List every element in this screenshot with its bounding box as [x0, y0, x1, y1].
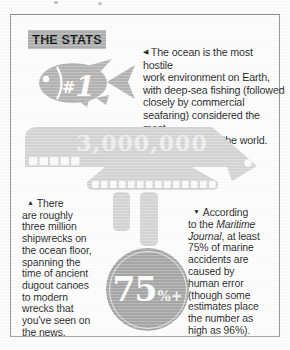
hull-windows — [29, 157, 80, 165]
human-error-stat-circle: 75%+ — [106, 248, 189, 331]
stats-header: THE STATS — [28, 30, 106, 49]
smokestack-right — [140, 192, 158, 246]
scan-artifact — [54, 1, 58, 4]
ship-porthole — [244, 159, 252, 167]
fish-eye — [43, 76, 49, 82]
number-one-fish-icon: #1 — [35, 58, 135, 107]
shipwreck-count-value: 3,000,000 — [76, 130, 207, 156]
stats-header-label: THE STATS — [32, 33, 101, 47]
stat-value-group: 75%+ — [113, 270, 183, 309]
triangle-down-icon: ▼ — [193, 208, 200, 215]
shipwrecks-text: There are roughly three million shipwrec… — [22, 198, 91, 338]
triangle-up-icon: ▲ — [27, 199, 34, 206]
shipwrecks-paragraph: ▲There are roughly three million shipwre… — [22, 197, 126, 338]
fish-tail — [107, 65, 135, 99]
triangle-left-icon: ◀ — [143, 48, 148, 55]
accidents-text-end: , at least 75% of marine accidents are c… — [188, 231, 260, 336]
accidents-paragraph: ▼According to the Maritime Journal, at l… — [188, 206, 286, 337]
stat-suffix: %+ — [157, 288, 182, 304]
scan-artifact — [98, 2, 102, 5]
infographic-page: THE STATS #1 ◀The ocean is the most host… — [0, 0, 290, 350]
stat-value: 75 — [113, 270, 157, 309]
